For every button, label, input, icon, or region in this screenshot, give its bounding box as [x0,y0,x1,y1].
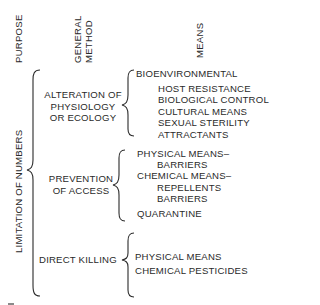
means-item: BIOENVIRONMENTAL [136,68,269,80]
means-item: HOST RESISTANCE [136,83,269,95]
method-prevention: PREVENTION OF ACCESS [46,173,116,196]
method-label-line: OF ACCESS [46,185,116,197]
means-item: BARRIERS [137,159,231,170]
method-direct-killing: DIRECT KILLING [39,254,117,266]
means-item: QUARANTINE [137,208,231,219]
method-label-line: DIRECT KILLING [39,254,117,266]
method-label-line: ALTERATION OF [43,89,123,101]
means-list-prevention: PHYSICAL MEANS– BARRIERS CHEMICAL MEANS–… [137,148,231,219]
means-item: REPELLENTS [137,182,231,193]
method-alteration: ALTERATION OF PHYSIOLOGY OR ECOLOGY [43,89,123,124]
means-item: PHYSICAL MEANS [135,250,248,264]
means-item: BIOLOGICAL CONTROL [136,94,269,106]
means-list-direct-killing: PHYSICAL MEANS CHEMICAL PESTICIDES [135,250,248,277]
means-item: BARRIERS [137,193,231,204]
means-item: ATTRACTANTS [136,129,269,141]
method-3-brace [122,233,134,297]
means-item: SEXUAL STERILITY [136,117,269,129]
means-list-alteration: BIOENVIRONMENTAL HOST RESISTANCE BIOLOGI… [136,68,269,141]
means-item: PHYSICAL MEANS– [137,148,231,159]
means-item: CHEMICAL PESTICIDES [135,264,248,278]
means-item: CULTURAL MEANS [136,106,269,118]
means-item: CHEMICAL MEANS– [137,170,231,181]
method-label-line: PREVENTION [46,173,116,185]
method-label-line: PHYSIOLOGY [43,101,123,113]
method-label-line: OR ECOLOGY [43,112,123,124]
method-1-brace [122,70,134,136]
